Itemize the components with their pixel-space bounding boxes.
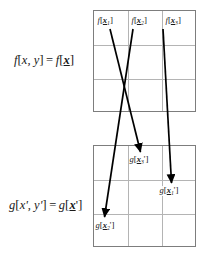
destination-equation: g[x', y'] = g[x'] — [9, 198, 82, 212]
source-label-x2-close: ] — [144, 15, 147, 25]
diagram-root: f[x, y] = f[x] g[x', y'] = g[x'] f[x1] f… — [0, 0, 203, 259]
destination-label-x1p-close: ] — [175, 185, 178, 195]
source-equation-equals: = — [46, 53, 53, 67]
source-equation-args: x, y — [22, 53, 39, 67]
destination-grid-hline-1 — [94, 180, 195, 181]
source-label-x3: f[x3] — [165, 16, 181, 26]
source-grid-vline-2 — [162, 11, 163, 111]
destination-equation-close: ] — [42, 197, 46, 212]
source-equation-close2: ] — [70, 52, 74, 67]
destination-label-x2p: g[x2'] — [95, 221, 115, 231]
source-equation: f[x, y] = f[x] — [14, 53, 74, 67]
destination-label-x3p: g[x3'] — [129, 155, 149, 165]
destination-equation-equals: = — [49, 198, 56, 212]
destination-equation-close2: ] — [78, 197, 82, 212]
destination-label-x1p: g[x1'] — [159, 186, 179, 196]
destination-grid-hline-2 — [94, 214, 195, 215]
source-label-x1-close: ] — [110, 15, 113, 25]
source-label-x3-close: ] — [178, 15, 181, 25]
destination-label-x3p-close: ] — [145, 154, 148, 164]
source-label-x2: f[x2] — [131, 16, 147, 26]
source-grid-vline-1 — [128, 11, 129, 111]
source-grid-hline-1 — [94, 45, 195, 46]
destination-label-x2p-close: ] — [111, 220, 114, 230]
source-grid-hline-2 — [94, 79, 195, 80]
destination-equation-args: x', y' — [20, 198, 43, 212]
source-equation-close: ] — [39, 52, 43, 67]
source-label-x1: f[x1] — [97, 16, 113, 26]
